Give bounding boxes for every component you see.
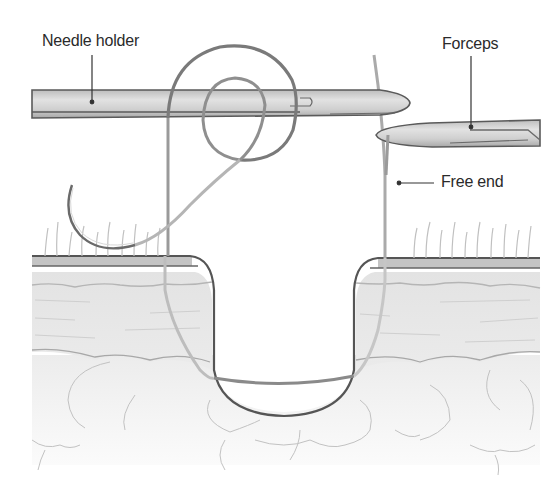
needle-holder-label: Needle holder	[42, 32, 139, 50]
suture-loops	[135, 46, 296, 245]
hairs-right	[414, 222, 531, 258]
forceps	[376, 120, 540, 147]
suture-instrument-tie-illustration: Needle holder Forceps Free end	[0, 0, 553, 486]
leader-lines	[90, 55, 473, 185]
free-end-label: Free end	[441, 173, 503, 191]
illustration-canvas	[0, 0, 553, 486]
tissue-block	[32, 222, 540, 475]
hairs-left	[45, 222, 160, 256]
needle-holder	[32, 90, 410, 118]
forceps-label: Forceps	[442, 35, 498, 53]
free-end-suture	[386, 135, 388, 175]
suture-strands	[168, 55, 385, 258]
suture-needle	[68, 185, 135, 248]
